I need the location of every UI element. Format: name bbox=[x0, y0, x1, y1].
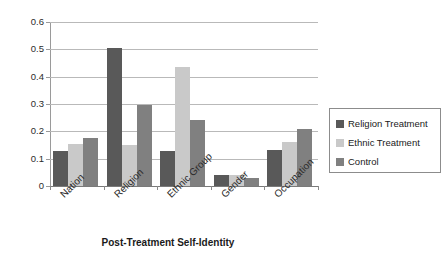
y-axis-tick-label: 0.1 bbox=[8, 154, 44, 164]
bar-series-container bbox=[50, 22, 318, 187]
y-axis-tick-label: 0.5 bbox=[8, 44, 44, 54]
bar bbox=[267, 150, 282, 186]
x-axis-title: Post-Treatment Self-Identity bbox=[0, 237, 336, 248]
y-axis-tick-label: 0.4 bbox=[8, 72, 44, 82]
legend-item[interactable]: Control bbox=[336, 153, 435, 171]
plot-area bbox=[50, 22, 318, 187]
bar-group bbox=[211, 22, 265, 186]
legend-label: Ethnic Treatment bbox=[348, 138, 420, 148]
bar bbox=[160, 151, 175, 186]
y-axis-tick-label: 0.3 bbox=[8, 99, 44, 109]
x-axis-tick-mark bbox=[264, 186, 265, 190]
x-axis-tick-mark bbox=[104, 186, 105, 190]
legend-item[interactable]: Religion Treatment bbox=[336, 115, 435, 133]
legend-label: Religion Treatment bbox=[348, 119, 428, 129]
legend-label: Control bbox=[348, 157, 379, 167]
x-axis-tick-mark bbox=[318, 186, 319, 190]
x-axis-tick-mark bbox=[50, 186, 51, 190]
bar-group bbox=[50, 22, 104, 186]
legend-swatch-icon bbox=[336, 139, 344, 147]
legend-swatch-icon bbox=[336, 158, 344, 166]
bar bbox=[53, 151, 68, 186]
bar-chart-figure: 00.10.20.30.40.50.6 NationReligionEthnic… bbox=[0, 0, 448, 256]
legend-swatch-icon bbox=[336, 120, 344, 128]
x-axis-tick-mark bbox=[211, 186, 212, 190]
y-axis-tick-label: 0.2 bbox=[8, 126, 44, 136]
x-axis-tick-mark bbox=[157, 186, 158, 190]
bar bbox=[107, 48, 122, 186]
y-axis-tick-label: 0 bbox=[8, 181, 44, 191]
bar-group bbox=[104, 22, 158, 186]
y-axis-tick-label: 0.6 bbox=[8, 17, 44, 27]
chart-legend: Religion TreatmentEthnic TreatmentContro… bbox=[329, 108, 441, 173]
legend-item[interactable]: Ethnic Treatment bbox=[336, 134, 435, 152]
